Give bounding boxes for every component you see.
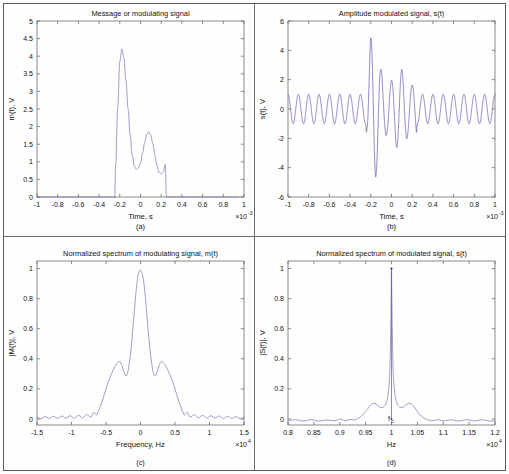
panel-d-svg: 0.80.850.90.9511.051.11.151.200.20.40.60… — [255, 237, 505, 470]
x-tick-label: -0.4 — [344, 201, 356, 208]
x-tick-label: 1 — [493, 201, 497, 208]
y-tick-label: 2.5 — [23, 106, 33, 113]
x-tick-label: 1.2 — [490, 429, 500, 436]
x-tick-label: -0.6 — [72, 201, 84, 208]
x-tick-label: 0.6 — [449, 201, 459, 208]
x-tick-label: -1.5 — [31, 429, 43, 436]
plot-title: Amplitude modulated signal, s(t) — [339, 9, 445, 18]
x-tick-label: 1 — [242, 201, 246, 208]
x-exponent: ×10 — [235, 213, 247, 220]
x-tick-label: -0.2 — [114, 201, 126, 208]
y-tick-label: 0.5 — [23, 176, 33, 183]
y-axis-label: s(t), V — [258, 98, 267, 119]
x-exponent: ×10 — [486, 441, 498, 448]
panel-c-svg: -1.5-1-0.500.511.500.20.40.60.81Normaliz… — [4, 237, 254, 470]
x-tick-label: 1.5 — [239, 429, 249, 436]
x-axis-label: Frequency, Hz — [116, 440, 165, 449]
x-tick-label: 0.8 — [469, 201, 479, 208]
x-tick-label: 0 — [139, 429, 143, 436]
x-tick-label: 1.15 — [462, 429, 476, 436]
x-tick-label: 0.8 — [218, 201, 228, 208]
x-exponent-superscript: 4 — [499, 438, 502, 444]
x-exponent: ×10 — [486, 213, 498, 220]
axis-frame — [288, 21, 495, 197]
y-tick-label: 0.4 — [23, 355, 33, 362]
x-tick-label: 1 — [208, 429, 212, 436]
x-tick-label: 0.5 — [170, 429, 180, 436]
panel-a-svg: -1-0.8-0.6-0.4-0.200.20.40.60.8100.511.5… — [4, 4, 254, 236]
panel-b-svg: -1-0.8-0.6-0.4-0.200.20.40.60.81-6-4-202… — [255, 4, 505, 236]
x-tick-label: 0 — [139, 201, 143, 208]
x-tick-label: 0.4 — [177, 201, 187, 208]
y-tick-label: 4 — [29, 53, 33, 60]
x-tick-label: -1 — [68, 429, 74, 436]
y-tick-label: 1 — [29, 265, 33, 272]
am-carrier-path — [288, 38, 495, 177]
x-exponent: ×10 — [235, 441, 247, 448]
y-tick-label: 0 — [29, 194, 33, 201]
x-axis-label: Time, s — [128, 212, 153, 221]
y-axis-label: |S(f)|, V — [258, 329, 267, 355]
plot-title: Normalized spectrum of modulated signal,… — [316, 249, 467, 258]
y-tick-label: 0 — [280, 106, 284, 113]
y-tick-label: -2 — [278, 135, 284, 142]
y-tick-label: 4 — [280, 47, 284, 54]
y-tick-label: 0.6 — [274, 325, 284, 332]
panel-a-message-signal: -1-0.8-0.6-0.4-0.200.20.40.60.8100.511.5… — [4, 4, 254, 236]
x-tick-label: 1.1 — [438, 429, 448, 436]
panel-caption: (d) — [387, 458, 396, 467]
y-tick-label: 2 — [280, 76, 284, 83]
x-tick-label: 0.95 — [359, 429, 373, 436]
panel-caption: (b) — [387, 222, 396, 231]
plot-title: Normalized spectrum of modulating signal… — [63, 249, 218, 258]
y-tick-label: 0 — [29, 416, 33, 423]
fc-annotation: f — [388, 415, 390, 422]
y-tick-label: 3 — [29, 88, 33, 95]
y-tick-label: 6 — [280, 18, 284, 25]
x-tick-label: 1 — [390, 429, 394, 436]
x-tick-label: -1 — [285, 201, 291, 208]
x-tick-label: -0.6 — [323, 201, 335, 208]
y-tick-label: -4 — [278, 164, 284, 171]
y-tick-label: 1.5 — [23, 141, 33, 148]
x-axis-label: Time, s — [379, 212, 404, 221]
y-tick-label: 0.8 — [23, 295, 33, 302]
y-tick-label: 0.4 — [274, 355, 284, 362]
x-tick-label: -0.8 — [52, 201, 64, 208]
y-tick-label: 1 — [29, 158, 33, 165]
message-spectrum-trace — [37, 270, 244, 419]
x-tick-label: 0 — [390, 201, 394, 208]
y-axis-label: |M(f)|, V — [7, 329, 16, 357]
axis-frame — [37, 261, 244, 425]
axis-frame — [37, 21, 244, 197]
y-tick-label: 0.2 — [274, 385, 284, 392]
panel-caption: (c) — [136, 458, 145, 467]
panel-b-am-signal: -1-0.8-0.6-0.4-0.200.20.40.60.81-6-4-202… — [255, 4, 505, 236]
plot-title: Message or modulating signal — [91, 9, 190, 18]
y-tick-label: 2 — [29, 123, 33, 130]
panel-caption: (a) — [136, 222, 145, 231]
x-tick-label: 0.2 — [407, 201, 417, 208]
x-tick-label: -0.8 — [303, 201, 315, 208]
y-tick-label: 1 — [280, 265, 284, 272]
y-tick-label: 0 — [280, 416, 284, 423]
y-axis-label: m(t), V — [7, 97, 16, 121]
am-signal-trace — [288, 38, 495, 177]
x-tick-label: 1.05 — [411, 429, 425, 436]
panel-d-modulated-spectrum: 0.80.850.90.9511.051.11.151.200.20.40.60… — [255, 237, 505, 470]
fc-annotation-subscript: c — [391, 418, 394, 424]
x-tick-label: 0.8 — [283, 429, 293, 436]
x-exponent-superscript: -3 — [499, 210, 504, 216]
y-tick-label: 0.6 — [23, 325, 33, 332]
x-tick-label: -0.5 — [100, 429, 112, 436]
panel-c-message-spectrum: -1.5-1-0.500.511.500.20.40.60.81Normaliz… — [4, 237, 254, 470]
x-axis-label: Hz — [387, 440, 396, 449]
x-tick-label: 0.9 — [335, 429, 345, 436]
y-tick-label: 0.2 — [23, 385, 33, 392]
x-exponent-superscript: -3 — [248, 210, 253, 216]
x-tick-label: 0.4 — [428, 201, 438, 208]
y-tick-label: 3.5 — [23, 70, 33, 77]
x-tick-label: 0.2 — [156, 201, 166, 208]
carrier-peak-marker — [390, 267, 392, 269]
x-tick-label: 0.85 — [307, 429, 321, 436]
